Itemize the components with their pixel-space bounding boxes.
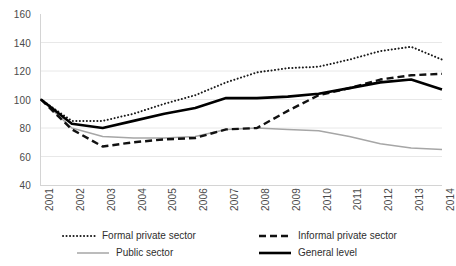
legend-item[interactable]: General level (258, 247, 357, 259)
x-axis-tick: 2014 (445, 188, 456, 211)
y-axis-tick: 120 (14, 66, 31, 77)
legend-label: Informal private sector (298, 230, 397, 242)
legend-item[interactable]: Informal private sector (258, 230, 397, 242)
legend-swatch-icon (258, 248, 292, 258)
y-axis-tick: 100 (14, 94, 31, 105)
x-axis-tick: 2013 (414, 188, 425, 211)
chart-legend: Formal private sectorInformal private se… (40, 230, 440, 264)
y-axis-tick-labels: 160140120100806040 (0, 0, 36, 200)
series-line (41, 47, 442, 121)
legend-swatch-icon (258, 231, 292, 241)
y-axis-tick: 40 (19, 180, 31, 191)
x-axis-tick: 2010 (322, 188, 333, 211)
x-axis-tick: 2012 (383, 188, 394, 211)
legend-swatch-icon (62, 231, 96, 241)
series-line (41, 100, 442, 150)
y-axis-tick: 80 (19, 123, 31, 134)
legend-label: Formal private sector (102, 230, 196, 242)
y-axis-tick: 160 (14, 9, 31, 20)
legend-label: General level (298, 247, 357, 259)
y-axis-tick: 60 (19, 151, 31, 162)
x-axis-tick: 2009 (291, 188, 302, 211)
x-axis-tick: 2007 (229, 188, 240, 211)
legend-item[interactable]: Public sector (76, 247, 173, 259)
x-axis-tick-labels: 2001200220032004200520062007200820092010… (40, 188, 441, 228)
x-axis-tick: 2006 (198, 188, 209, 211)
x-axis-tick: 2002 (75, 188, 86, 211)
y-axis-tick: 140 (14, 37, 31, 48)
x-axis-tick: 2001 (44, 188, 55, 211)
x-axis-tick: 2005 (167, 188, 178, 211)
plot-area (40, 14, 442, 186)
legend-item[interactable]: Formal private sector (62, 230, 196, 242)
x-axis-tick: 2004 (137, 188, 148, 211)
x-axis-tick: 2008 (260, 188, 271, 211)
x-axis-tick: 2003 (106, 188, 117, 211)
legend-label: Public sector (116, 247, 173, 259)
x-axis-tick: 2011 (352, 188, 363, 210)
series-canvas (41, 14, 442, 185)
legend-swatch-icon (76, 248, 110, 258)
